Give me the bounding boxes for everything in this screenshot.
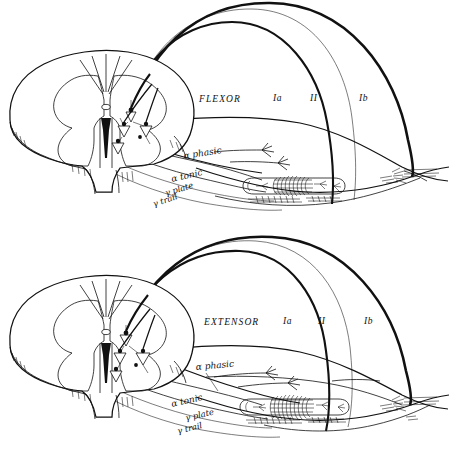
extensor-diagram: EXTENSOR Ia II Ib α phasic α tonic γ pla… xyxy=(0,225,450,450)
muscle-belly-extensor xyxy=(170,346,449,431)
central-canal-extensor xyxy=(102,329,110,334)
efferent-label-alpha-phasic-flexor: α phasic xyxy=(183,145,222,161)
afferent-label-II-flexor: II xyxy=(309,93,318,103)
trail-endings-extensor xyxy=(253,402,345,412)
reflex-circuitry-figure: FLEXOR Ia II Ib α phasic α tonic γ plate… xyxy=(0,0,450,450)
muscle-spindle-flexor xyxy=(243,176,345,203)
afferent-label-Ib-extensor: Ib xyxy=(363,316,373,326)
afferent-label-Ia-flexor: Ia xyxy=(272,93,282,103)
muscle-label-extensor: EXTENSOR xyxy=(203,317,259,327)
motor-end-plates-flexor xyxy=(248,196,342,203)
efferent-label-gamma-trail-extensor: γ trail xyxy=(176,420,203,436)
panel-flexor: FLEXOR Ia II Ib α phasic α tonic γ plate… xyxy=(0,0,450,225)
leader-line-alpha-phasic-extensor xyxy=(206,373,218,391)
central-canal-flexor xyxy=(102,104,110,109)
spinal-cord-cross-section-extensor xyxy=(10,276,194,420)
spinal-cord-cross-section-flexor xyxy=(10,51,194,195)
afferent-label-Ia-extensor: Ia xyxy=(282,316,292,326)
efferent-label-gamma-trail-flexor: γ trail xyxy=(151,191,179,209)
panel-extensor: EXTENSOR Ia II Ib α phasic α tonic γ pla… xyxy=(0,225,450,450)
afferent-label-Ib-flexor: Ib xyxy=(358,93,368,103)
efferent-label-alpha-phasic-extensor: α phasic xyxy=(195,359,234,372)
efferent-label-alpha-tonic-extensor: α tonic xyxy=(170,392,203,409)
afferent-label-II-extensor: II xyxy=(317,316,326,326)
trail-endings-flexor xyxy=(256,181,341,191)
muscle-label-flexor: FLEXOR xyxy=(198,94,241,104)
flexor-diagram: FLEXOR Ia II Ib α phasic α tonic γ plate… xyxy=(0,0,450,225)
